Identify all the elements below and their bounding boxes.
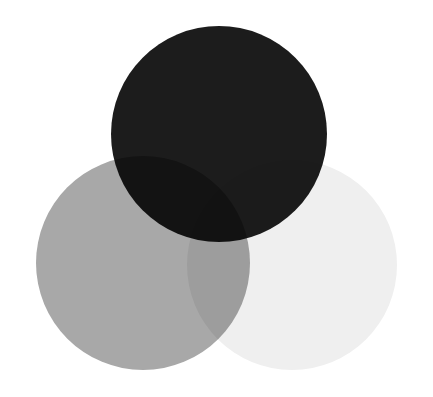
venn-diagram [0, 0, 433, 397]
top-dark-circle [111, 26, 327, 242]
